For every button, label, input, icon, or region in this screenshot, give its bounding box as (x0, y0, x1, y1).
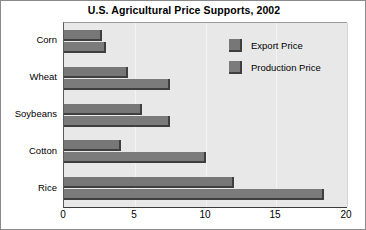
category-label-wheat: Wheat (1, 71, 57, 82)
chart-title: U.S. Agricultural Price Supports, 2002 (1, 4, 366, 16)
legend-label: Production Price (251, 62, 321, 73)
x-tick-label: 20 (340, 209, 351, 220)
category-label-cotton: Cotton (1, 145, 57, 156)
legend-label: Export Price (251, 40, 303, 51)
category-label-soybeans: Soybeans (1, 108, 57, 119)
x-axis-tick-labels: 05101520 (63, 209, 346, 225)
legend-item: Export Price (229, 34, 349, 56)
x-tick-label: 5 (131, 209, 137, 220)
category-label-corn: Corn (1, 34, 57, 45)
legend-swatch-icon (229, 61, 242, 74)
x-tick-label: 0 (60, 209, 66, 220)
legend-item: Production Price (229, 56, 349, 78)
x-tick-label: 15 (269, 209, 280, 220)
legend: Export PriceProduction Price (229, 34, 349, 78)
x-tick-label: 10 (199, 209, 210, 220)
legend-swatch-icon (229, 39, 242, 52)
category-label-rice: Rice (1, 182, 57, 193)
chart-container: U.S. Agricultural Price Supports, 2002 C… (0, 0, 366, 230)
